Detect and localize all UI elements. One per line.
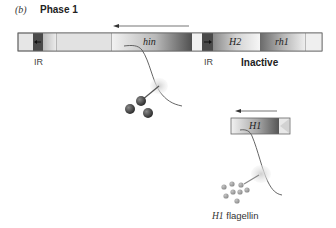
panel-letter: (b) — [15, 4, 27, 15]
flagellin-subunits-icon — [221, 181, 249, 203]
h1-mrna-strand — [240, 130, 282, 195]
hin-label: hin — [143, 36, 156, 47]
ribosome-icon — [251, 165, 271, 183]
right-ir-label: IR — [204, 57, 213, 67]
arrowhead-icon — [235, 109, 241, 113]
arrowhead-icon — [113, 24, 119, 28]
hin-mrna-strand — [124, 45, 182, 106]
diagram-canvas — [0, 0, 336, 228]
rh1-label: rh1 — [275, 36, 289, 47]
h1-flagellin-text: flagellin — [224, 210, 259, 221]
h1-label: H1 — [249, 120, 261, 131]
panel-title: Phase 1 — [40, 4, 78, 15]
h2-label: H2 — [229, 36, 241, 47]
h1-flagellin-label: H1 flagellin — [212, 210, 258, 221]
h1-flagellin-gene: H1 — [212, 211, 224, 221]
inactive-status-label: Inactive — [241, 57, 278, 68]
hin-protein-icon — [125, 96, 153, 118]
left-ir-label: IR — [34, 57, 43, 67]
